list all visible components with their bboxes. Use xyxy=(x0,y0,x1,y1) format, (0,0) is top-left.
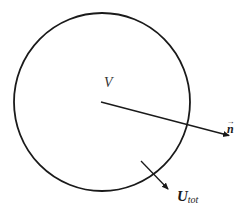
volume-label: V xyxy=(104,75,114,90)
diagram-canvas: V → n Utot xyxy=(0,0,243,215)
velocity-label-subscript: tot xyxy=(188,194,199,205)
velocity-label: Utot xyxy=(177,188,199,205)
normal-label: n xyxy=(227,122,234,136)
normal-vector-arrow xyxy=(101,102,229,136)
